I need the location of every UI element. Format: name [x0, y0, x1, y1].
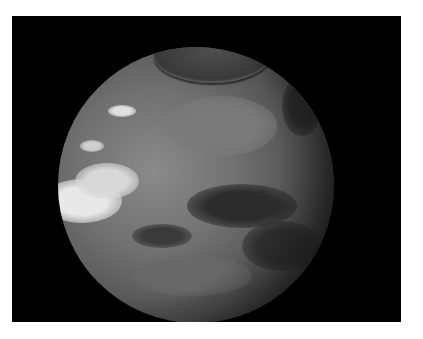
- image-frame: [12, 16, 401, 322]
- terminator-shading: [58, 47, 334, 322]
- planet-globe: [58, 47, 334, 322]
